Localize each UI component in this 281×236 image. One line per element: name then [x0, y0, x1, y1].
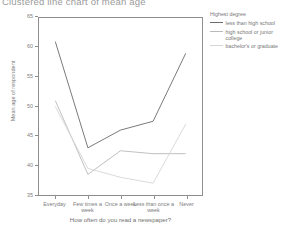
- y-tick-label: 40: [27, 162, 33, 168]
- chart-title: Clustered line chart of mean age: [2, 0, 202, 7]
- legend-item-label: high school or junior college: [226, 29, 281, 41]
- chart-screenshot: Clustered line chart of mean age Mean ag…: [0, 0, 281, 236]
- y-tick-label: 45: [27, 132, 33, 138]
- y-axis-title: Mean age of respondent: [10, 16, 16, 166]
- legend-item[interactable]: high school or junior college: [210, 29, 280, 41]
- x-tick-mark: [187, 196, 188, 199]
- legend-item-label: bachelor's or graduate: [226, 43, 279, 49]
- x-axis-title: How often do you read a newspaper?: [38, 216, 203, 223]
- x-tick-mark: [88, 196, 89, 199]
- x-tick-mark: [55, 196, 56, 199]
- legend-title: Highest degree: [210, 11, 280, 17]
- x-tick-label: Never: [166, 201, 208, 207]
- plot-area: [38, 17, 203, 196]
- legend-item[interactable]: less than high school: [210, 20, 280, 26]
- y-tick-mark: [35, 46, 38, 47]
- y-tick-mark: [35, 76, 38, 77]
- legend: Highest degree less than high schoolhigh…: [210, 11, 280, 51]
- x-tick-mark: [121, 196, 122, 199]
- y-tick-mark: [35, 106, 38, 107]
- y-tick-label: 35: [27, 192, 33, 198]
- y-tick-label: 65: [27, 13, 33, 19]
- y-tick-mark: [35, 195, 38, 196]
- legend-line-swatch: [210, 29, 223, 34]
- x-tick-mark: [154, 196, 155, 199]
- plot-lines: [39, 18, 202, 195]
- legend-line-swatch: [210, 43, 223, 48]
- y-tick-mark: [35, 135, 38, 136]
- y-tick-label: 50: [27, 103, 33, 109]
- legend-item[interactable]: bachelor's or graduate: [210, 43, 280, 49]
- y-tick-mark: [35, 165, 38, 166]
- series-line: [55, 42, 185, 148]
- y-tick-label: 60: [27, 43, 33, 49]
- y-tick-label: 55: [27, 73, 33, 79]
- legend-line-swatch: [210, 20, 223, 25]
- series-line: [55, 101, 185, 175]
- legend-item-label: less than high school: [226, 20, 275, 26]
- y-tick-mark: [35, 16, 38, 17]
